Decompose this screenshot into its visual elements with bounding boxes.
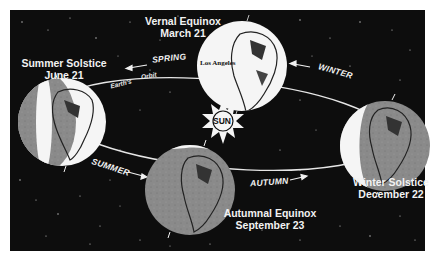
- autumnal-equinox-title: Autumnal Equinox: [220, 207, 320, 219]
- city-label-los-angeles: Los Angeles: [200, 59, 236, 67]
- winter-solstice-date: December 22: [345, 188, 437, 200]
- summer-solstice-title: Summer Solstice: [14, 57, 114, 69]
- summer-solstice-date: June 21: [14, 69, 114, 81]
- autumnal-equinox-date: September 23: [220, 219, 320, 231]
- orbit-diagram: [0, 0, 438, 262]
- winter-solstice-title: Winter Solstice: [345, 176, 437, 188]
- sun-label: SUN: [213, 116, 231, 126]
- vernal-equinox-title: Vernal Equinox: [128, 15, 238, 27]
- vernal-equinox-date: March 21: [128, 27, 238, 39]
